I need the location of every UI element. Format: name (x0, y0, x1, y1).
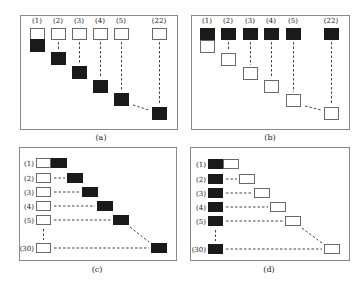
right-box (98, 202, 113, 211)
left-box (209, 245, 223, 254)
left-box (209, 175, 223, 184)
column-label: (5) (288, 17, 298, 25)
left-box (37, 216, 51, 225)
caption-d: (d) (263, 265, 274, 274)
left-box (37, 202, 51, 211)
row-label: (1) (196, 161, 206, 169)
top-box (94, 29, 108, 40)
row-label: (3) (196, 190, 206, 198)
row-label: (5) (24, 217, 34, 225)
diagonal-dashed-connector (302, 228, 322, 243)
diagonal-dashed-connector (130, 227, 149, 242)
row-label: (2) (196, 176, 206, 184)
left-box (209, 217, 223, 226)
row-label: (30) (20, 245, 35, 253)
column-label: (1) (32, 17, 42, 25)
top-box (31, 29, 45, 40)
top-box (115, 29, 129, 40)
bottom-box (115, 94, 129, 106)
left-box (37, 188, 51, 197)
top-box (153, 29, 167, 40)
top-box (265, 29, 279, 40)
right-box (240, 175, 255, 184)
bottom-box (244, 68, 258, 80)
right-box (152, 244, 167, 253)
bottom-box (94, 81, 108, 93)
caption-a: (a) (95, 133, 106, 142)
column-label: (2) (53, 17, 63, 25)
left-box (37, 244, 51, 253)
row-label: (3) (24, 189, 34, 197)
caption-c: (c) (92, 265, 103, 274)
diagonal-dashed-connector (305, 106, 321, 110)
left-box (209, 203, 223, 212)
bottom-box (201, 41, 215, 53)
right-box (271, 203, 286, 212)
top-box (287, 29, 301, 40)
right-box (114, 216, 129, 225)
right-box (286, 217, 301, 226)
left-box (209, 189, 223, 198)
row-label: (30) (192, 246, 207, 254)
column-label: (3) (74, 17, 84, 25)
row-label: (2) (24, 175, 34, 183)
column-label: (1) (202, 17, 212, 25)
top-box (73, 29, 87, 40)
column-label: (4) (95, 17, 105, 25)
column-label: (2) (223, 17, 233, 25)
diagram-canvas: (a)(1)(2)(3)(4)(5)(22)(b)(1)(2)(3)(4)(5)… (0, 0, 363, 290)
row-label: (1) (24, 160, 34, 168)
top-box (222, 29, 236, 40)
diagonal-dashed-connector (133, 105, 149, 110)
left-box (37, 174, 51, 183)
column-label: (22) (324, 17, 339, 25)
column-label: (22) (152, 17, 167, 25)
caption-b: (b) (264, 133, 275, 142)
right-box (255, 189, 270, 198)
top-box (52, 29, 66, 40)
left-box (37, 159, 51, 168)
bottom-box (153, 108, 167, 120)
top-box (201, 29, 215, 40)
row-label: (4) (24, 203, 34, 211)
top-box (325, 29, 339, 40)
right-box (83, 188, 98, 197)
bottom-box (52, 53, 66, 65)
bottom-box (287, 95, 301, 107)
right-box (325, 245, 340, 254)
bottom-box (73, 67, 87, 79)
right-box (52, 159, 67, 168)
bottom-box (222, 54, 236, 66)
right-box (224, 160, 239, 169)
column-label: (5) (116, 17, 126, 25)
row-label: (4) (196, 204, 206, 212)
column-label: (4) (266, 17, 276, 25)
left-box (209, 160, 223, 169)
column-label: (3) (245, 17, 255, 25)
row-label: (5) (196, 218, 206, 226)
bottom-box (325, 108, 339, 120)
right-box (68, 174, 83, 183)
bottom-box (265, 81, 279, 93)
bottom-box (31, 40, 45, 52)
top-box (244, 29, 258, 40)
